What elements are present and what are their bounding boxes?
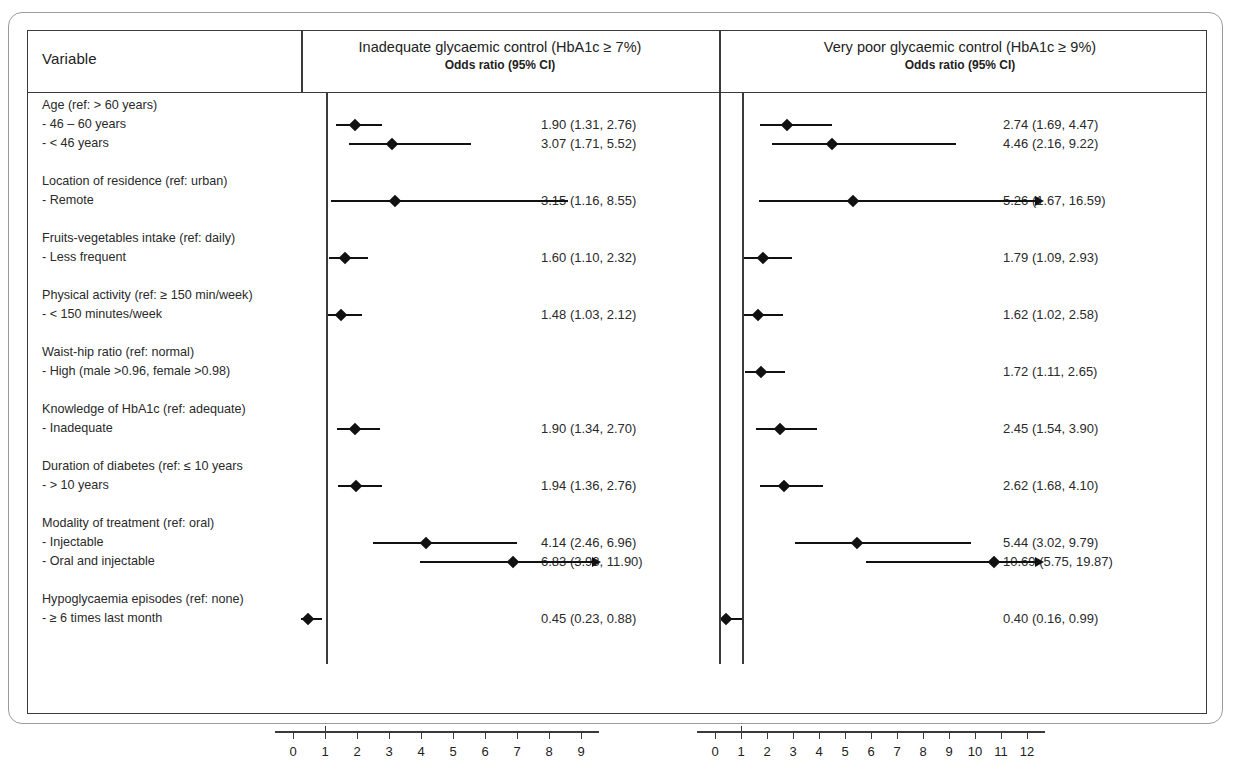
table-body: Age (ref: > 60 years)- 46 – 60 years- < …	[28, 93, 1206, 715]
axis-tick	[453, 731, 454, 739]
confidence-interval-line	[756, 428, 817, 430]
axis-tick-label: 2	[353, 744, 360, 759]
odds-ratio-marker	[506, 556, 519, 569]
axis-tick	[767, 731, 768, 739]
column-header-verypoor-title: Very poor glycaemic control (HbA1c ≥ 9%)	[740, 39, 1180, 55]
group-heading: Age (ref: > 60 years)	[42, 99, 157, 112]
header-separator-right	[719, 31, 721, 93]
axis-tick	[325, 726, 326, 739]
reference-line-or-1	[326, 93, 328, 664]
axis-tick	[581, 731, 582, 739]
row-label: - > 10 years	[42, 479, 109, 492]
odds-ratio-marker	[350, 480, 363, 493]
ci-truncation-arrow-icon	[1035, 557, 1044, 567]
axis-tick-label: 7	[513, 744, 520, 759]
odds-ratio-marker	[756, 252, 769, 265]
confidence-interval-line	[772, 143, 956, 145]
estimate-text: 4.14 (2.46, 6.96)	[541, 535, 636, 550]
row-label: - Less frequent	[42, 251, 126, 264]
row-label: - ≥ 6 times last month	[42, 612, 162, 625]
axis-tick-label: 12	[1020, 744, 1034, 759]
axis-tick	[293, 731, 294, 739]
estimate-text: 1.90 (1.31, 2.76)	[541, 117, 636, 132]
row-label: - Oral and injectable	[42, 555, 155, 568]
odds-ratio-marker	[348, 423, 361, 436]
axis-tick-label: 6	[481, 744, 488, 759]
odds-ratio-marker	[773, 423, 786, 436]
column-header-verypoor: Very poor glycaemic control (HbA1c ≥ 9%)…	[740, 39, 1180, 72]
estimate-text: 0.45 (0.23, 0.88)	[541, 611, 636, 626]
group-heading: Waist-hip ratio (ref: normal)	[42, 346, 194, 359]
confidence-interval-line	[795, 542, 971, 544]
confidence-interval-line	[760, 124, 832, 126]
estimate-text: 1.62 (1.02, 2.58)	[1003, 307, 1098, 322]
odds-ratio-marker	[781, 119, 794, 132]
odds-ratio-marker	[988, 556, 1001, 569]
odds-ratio-marker	[720, 613, 733, 626]
axis-tick	[517, 731, 518, 739]
axis-tick	[1027, 731, 1028, 739]
estimate-text: 2.62 (1.68, 4.10)	[1003, 478, 1098, 493]
axis-tick	[793, 731, 794, 739]
axis-tick	[715, 731, 716, 739]
estimate-text: 1.94 (1.36, 2.76)	[541, 478, 636, 493]
estimate-text: 1.90 (1.34, 2.70)	[541, 421, 636, 436]
ci-truncation-arrow-icon	[592, 557, 601, 567]
confidence-interval-line	[759, 200, 1034, 202]
axis-tick	[421, 731, 422, 739]
row-label: - High (male >0.96, female >0.98)	[42, 365, 230, 378]
table-header: Variable Inadequate glycaemic control (H…	[28, 31, 1206, 93]
estimate-text: 0.40 (0.16, 0.99)	[1003, 611, 1098, 626]
odds-ratio-marker	[302, 613, 315, 626]
confidence-interval-line	[349, 143, 471, 145]
row-label: - Inadequate	[42, 422, 113, 435]
axis-tick-label: 4	[815, 744, 822, 759]
odds-ratio-marker	[348, 119, 361, 132]
axis-tick	[897, 731, 898, 739]
row-label: - < 150 minutes/week	[42, 308, 162, 321]
axis-tick-label: 7	[893, 744, 900, 759]
axis-tick	[949, 731, 950, 739]
axis-tick	[357, 731, 358, 739]
axis-tick	[923, 731, 924, 739]
estimate-text: 2.45 (1.54, 3.90)	[1003, 421, 1098, 436]
column-header-inadequate: Inadequate glycaemic control (HbA1c ≥ 7%…	[320, 39, 680, 72]
odds-ratio-marker	[754, 366, 767, 379]
axis-tick	[819, 731, 820, 739]
column-header-inadequate-subtitle: Odds ratio (95% CI)	[320, 58, 680, 72]
axis-tick	[975, 731, 976, 739]
group-heading: Hypoglycaemia episodes (ref: none)	[42, 593, 244, 606]
axis-tick-label: 5	[841, 744, 848, 759]
odds-ratio-marker	[846, 195, 859, 208]
axis-tick	[741, 726, 742, 739]
odds-ratio-marker	[339, 252, 352, 265]
header-separator-left	[301, 31, 303, 93]
axis-baseline	[275, 731, 599, 733]
column-header-inadequate-title: Inadequate glycaemic control (HbA1c ≥ 7%…	[320, 39, 680, 55]
odds-ratio-marker	[826, 138, 839, 151]
column-header-verypoor-subtitle: Odds ratio (95% CI)	[740, 58, 1180, 72]
axis-tick-label: 8	[545, 744, 552, 759]
forest-plot-figure: Variable Inadequate glycaemic control (H…	[0, 0, 1237, 777]
estimate-text: 1.48 (1.03, 2.12)	[541, 307, 636, 322]
ci-truncation-arrow-icon	[1035, 196, 1044, 206]
axis-tick-label: 2	[763, 744, 770, 759]
axis-tick	[1001, 731, 1002, 739]
estimate-text: 1.79 (1.09, 2.93)	[1003, 250, 1098, 265]
axis-tick-label: 0	[289, 744, 296, 759]
estimate-text: 5.44 (3.02, 9.79)	[1003, 535, 1098, 550]
estimate-text: 2.74 (1.69, 4.47)	[1003, 117, 1098, 132]
group-heading: Modality of treatment (ref: oral)	[42, 517, 214, 530]
confidence-interval-line	[331, 200, 567, 202]
estimate-text: 1.60 (1.10, 2.32)	[541, 250, 636, 265]
odds-ratio-marker	[386, 138, 399, 151]
axis-tick	[485, 731, 486, 739]
axis-tick-label: 1	[321, 744, 328, 759]
odds-ratio-marker	[752, 309, 765, 322]
axis-tick-label: 0	[711, 744, 718, 759]
panel-divider	[719, 93, 721, 664]
confidence-interval-line	[866, 561, 1035, 563]
axis-tick-label: 1	[737, 744, 744, 759]
group-heading: Fruits-vegetables intake (ref: daily)	[42, 232, 235, 245]
group-heading: Knowledge of HbA1c (ref: adequate)	[42, 403, 246, 416]
